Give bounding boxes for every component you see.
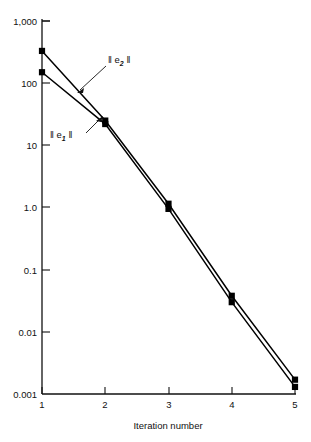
x-tick-label-3: 3	[166, 399, 171, 410]
x-tick-label-4: 4	[229, 399, 234, 410]
x-tick-label-2: 2	[102, 399, 107, 410]
semilog-chart-svg: 1,000 100 10 1.0 0.1 0.01 0.001 1 2 3 4 …	[0, 0, 311, 442]
y-tick-label-1: 1.0	[24, 202, 37, 213]
data-point-marker	[292, 377, 298, 383]
y-tick-label-1000: 1,000	[13, 16, 37, 27]
y-tick-label-0.01: 0.01	[19, 327, 38, 338]
data-point-marker	[39, 48, 45, 54]
annotation-e2-text-tail: ‖	[124, 54, 131, 65]
data-point-marker	[229, 293, 235, 299]
annotation-e2-text: ‖ e2 ‖	[108, 54, 130, 67]
data-point-marker	[229, 299, 235, 305]
y-tick-label-100: 100	[21, 78, 37, 89]
annotation-e1-text: ‖ e1 ‖	[50, 129, 72, 142]
data-point-marker	[292, 384, 298, 390]
data-point-marker	[102, 121, 108, 127]
annotation-e1-text-main: ‖ e	[50, 129, 62, 140]
annotation-e1-text-tail: ‖	[66, 129, 73, 140]
x-tick-label-1: 1	[39, 399, 44, 410]
chart-figure: 1,000 100 10 1.0 0.1 0.01 0.001 1 2 3 4 …	[0, 0, 311, 442]
x-axis-title: Iteration number	[133, 420, 202, 431]
y-tick-label-10: 10	[26, 140, 37, 151]
chart-background	[0, 0, 311, 442]
annotation-e2-text-main: ‖ e	[108, 54, 120, 65]
y-tick-label-0.001: 0.001	[13, 389, 37, 400]
y-tick-label-0.1: 0.1	[24, 265, 37, 276]
data-point-marker	[39, 69, 45, 75]
data-point-marker	[165, 206, 171, 212]
x-tick-label-5: 5	[292, 399, 297, 410]
